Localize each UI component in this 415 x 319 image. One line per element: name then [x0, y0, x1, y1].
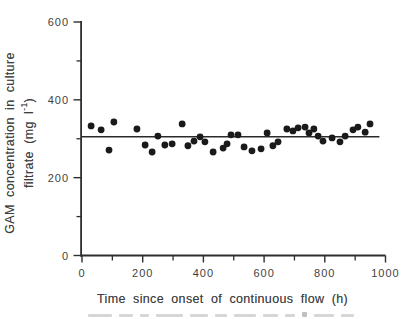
data-point: [154, 133, 161, 140]
data-point: [88, 123, 95, 130]
data-point: [283, 126, 290, 133]
data-point: [161, 142, 168, 149]
data-point: [134, 126, 141, 133]
y-tick-label: 200: [48, 172, 69, 184]
x-tick-label: 200: [132, 267, 153, 279]
data-point: [275, 138, 282, 145]
data-point: [337, 138, 344, 145]
data-point: [302, 124, 309, 131]
data-point: [342, 133, 349, 140]
cropped-caption-remnant: [88, 312, 366, 319]
data-point: [362, 129, 369, 136]
y-tick-label: 0: [62, 250, 69, 262]
x-tick-label: 800: [314, 267, 335, 279]
plot-area: 020040060002004006008001000: [0, 0, 415, 319]
x-tick-label: 600: [253, 267, 274, 279]
data-point: [258, 145, 265, 152]
y-axis-units-suffix: ): [21, 98, 35, 103]
y-axis-title-line1: GAM concentration in culture: [4, 52, 18, 234]
y-tick-label: 400: [48, 94, 69, 106]
x-axis-title: Time since onset of continuous flow (h): [80, 292, 365, 306]
y-axis-units-prefix: filtrate (mg l: [21, 111, 35, 188]
data-point: [106, 147, 113, 154]
data-point: [179, 121, 186, 128]
data-point: [310, 126, 317, 133]
data-point: [235, 131, 242, 138]
data-point: [228, 131, 235, 138]
scatter-plot-figure: 020040060002004006008001000 GAM concentr…: [0, 0, 415, 319]
y-axis-title: GAM concentration in culture filtrate (m…: [4, 52, 35, 234]
data-point: [295, 124, 302, 131]
data-point: [149, 149, 156, 156]
data-point: [197, 133, 204, 140]
y-axis-title-line2: filtrate (mg l-1): [18, 52, 36, 234]
data-point: [202, 138, 209, 145]
x-tick-label: 400: [193, 267, 214, 279]
data-point: [169, 140, 176, 147]
data-point: [142, 142, 149, 149]
data-point: [354, 124, 361, 131]
data-point: [367, 121, 374, 128]
data-point: [264, 130, 271, 137]
data-point: [249, 147, 256, 154]
data-point: [185, 142, 192, 149]
data-point: [329, 135, 336, 142]
data-point: [110, 119, 117, 126]
data-point: [320, 138, 327, 145]
data-point: [191, 138, 198, 145]
x-tick-label: 1000: [371, 267, 399, 279]
data-point: [315, 133, 322, 140]
data-point: [210, 149, 217, 156]
data-point: [98, 126, 105, 133]
x-tick-label: 0: [78, 267, 85, 279]
data-point: [224, 140, 231, 147]
data-point: [241, 144, 248, 151]
y-tick-label: 600: [48, 16, 69, 28]
y-axis-units-superscript: -1: [19, 103, 29, 111]
